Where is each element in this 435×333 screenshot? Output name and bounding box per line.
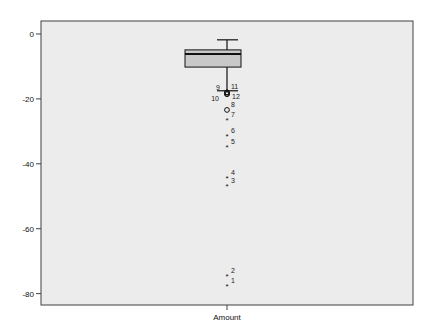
case-label: 11 [231, 83, 238, 90]
extreme-star-icon: * [225, 182, 228, 191]
case-label: 9 [216, 84, 220, 91]
case-label: 10 [211, 95, 219, 102]
case-label: 12 [232, 93, 240, 100]
extreme-star-icon: * [225, 143, 228, 152]
extreme-star-icon: * [225, 282, 228, 291]
case-label: 7 [231, 111, 235, 118]
case-label: 2 [231, 267, 235, 274]
y-tick-label: -60 [22, 225, 34, 234]
case-label: 6 [231, 127, 235, 134]
y-tick-label: -80 [22, 290, 34, 299]
chart-canvas: 0-20-40-60-80 Amount 91110128*7*6*5*4*3*… [0, 0, 435, 333]
boxplot-chart: 0-20-40-60-80 Amount 91110128*7*6*5*4*3*… [0, 0, 435, 333]
case-label: 1 [231, 277, 235, 284]
case-label: 5 [231, 138, 235, 145]
y-tick-label: -20 [22, 95, 34, 104]
x-category-label: Amount [213, 313, 241, 322]
extreme-star-icon: * [225, 132, 228, 141]
y-axis: 0-20-40-60-80 [22, 30, 41, 299]
x-axis: Amount [213, 305, 241, 322]
case-label: 3 [231, 177, 235, 184]
extreme-star-icon: * [225, 116, 228, 125]
extreme-star-icon: * [225, 272, 228, 281]
case-label: 8 [231, 101, 235, 108]
iqr-box [185, 50, 241, 67]
y-tick-label: -40 [22, 160, 34, 169]
case-label: 4 [231, 169, 235, 176]
y-tick-label: 0 [30, 30, 35, 39]
